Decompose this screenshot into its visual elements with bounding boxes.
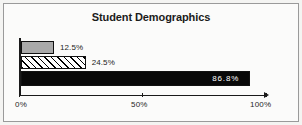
value-axis-line — [19, 95, 267, 96]
axis-tick-0 — [19, 93, 20, 97]
bar-value-label-1: 12.5% — [60, 43, 83, 52]
axis-tick-label-0: 0% — [15, 100, 27, 109]
bar-series-2 — [21, 56, 86, 69]
bar-value-label-3: 86.8% — [212, 74, 239, 83]
bar-value-label-2: 24.5% — [92, 58, 115, 67]
axis-tick-label-50: 50% — [131, 100, 148, 109]
axis-tick-100 — [266, 93, 267, 97]
axis-tick-50 — [142, 93, 143, 97]
plot-area: 12.5% 24.5% 86.8% — [19, 38, 285, 96]
chart-figure: Student Demographics 12.5% 24.5% 86.8% 0… — [0, 0, 302, 125]
bar-series-1 — [21, 41, 54, 54]
chart-title: Student Demographics — [0, 11, 302, 23]
axis-tick-label-100: 100% — [250, 100, 271, 109]
